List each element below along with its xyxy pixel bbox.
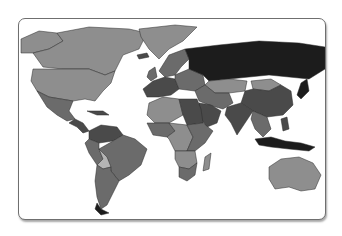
region-philippines[interactable] (281, 117, 289, 131)
region-uk-ireland[interactable] (147, 67, 157, 81)
world-map[interactable] (19, 19, 325, 219)
region-iceland[interactable] (137, 53, 149, 59)
region-australia[interactable] (269, 157, 321, 191)
region-indonesia[interactable] (255, 137, 315, 151)
region-central-america[interactable] (69, 119, 89, 133)
region-madagascar[interactable] (203, 153, 211, 171)
region-western-europe[interactable] (143, 77, 179, 97)
region-north-africa-west[interactable] (147, 97, 183, 123)
region-japan[interactable] (297, 79, 309, 99)
region-cuba[interactable] (87, 111, 109, 115)
map-frame (18, 18, 326, 220)
region-russia[interactable] (185, 41, 325, 81)
